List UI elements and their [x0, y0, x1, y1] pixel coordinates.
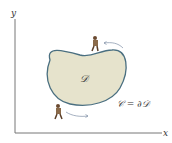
boundary-label: 𝒞 = ∂𝒟 — [117, 99, 151, 109]
y-axis-label: y — [10, 8, 17, 18]
arrow-bottom — [66, 112, 88, 116]
x-axis-label: x — [163, 128, 168, 138]
walker-bottom-icon — [55, 104, 62, 119]
walker-top-icon — [92, 36, 98, 51]
arrow-top — [104, 43, 123, 48]
diagram: y x 𝒟 𝒞 = ∂𝒟 — [0, 0, 172, 143]
